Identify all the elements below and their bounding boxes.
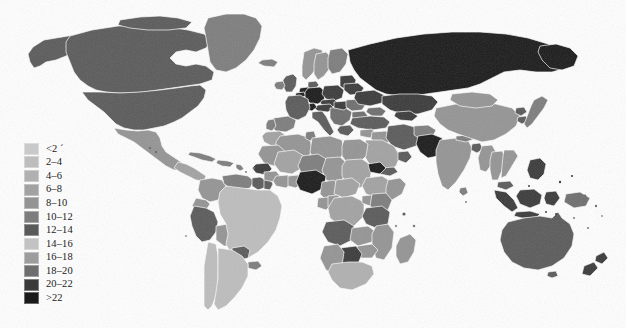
legend-swatch-6-8 bbox=[24, 184, 39, 196]
legend-swatch-8-10 bbox=[24, 197, 39, 209]
legend-item[interactable]: 14–16 bbox=[24, 237, 96, 251]
legend-item[interactable]: 20–22 bbox=[24, 278, 96, 292]
legend-label-8-10: 8–10 bbox=[46, 198, 67, 209]
legend-item[interactable]: 12–14 bbox=[24, 224, 96, 238]
legend-swatch-12-14 bbox=[24, 224, 39, 236]
legend-swatch-2-4 bbox=[24, 156, 39, 168]
legend-swatch-14-16 bbox=[24, 238, 39, 250]
legend-swatch-gt22 bbox=[24, 292, 39, 304]
legend-item[interactable]: 16–18 bbox=[24, 251, 96, 265]
legend-swatch-20-22 bbox=[24, 279, 39, 291]
legend-label-18-20: 18–20 bbox=[46, 266, 73, 277]
legend-item[interactable]: <2 ˊ bbox=[24, 142, 96, 156]
legend-swatch-18-20 bbox=[24, 265, 39, 277]
legend-swatch-4-6 bbox=[24, 170, 39, 182]
legend-item[interactable]: 10–12 bbox=[24, 210, 96, 224]
legend-swatch-16-18 bbox=[24, 252, 39, 264]
legend-label-lt2: <2 ˊ bbox=[46, 144, 64, 155]
legend-label-10-12: 10–12 bbox=[46, 212, 73, 223]
legend-item[interactable]: 6–8 bbox=[24, 183, 96, 197]
legend-label-20-22: 20–22 bbox=[46, 279, 73, 290]
legend-swatch-lt2 bbox=[24, 143, 39, 155]
legend-label-14-16: 14–16 bbox=[46, 239, 73, 250]
legend-item[interactable]: >22 bbox=[24, 292, 96, 306]
world-choropleth-figure: <2 ˊ 2–4 4–6 6–8 8–10 10–12 12–14 14–16 bbox=[0, 0, 626, 328]
legend-label-16-18: 16–18 bbox=[46, 252, 73, 263]
legend-label-12-14: 12–14 bbox=[46, 225, 73, 236]
legend-item[interactable]: 2–4 bbox=[24, 156, 96, 170]
legend-label-gt22: >22 bbox=[46, 293, 63, 304]
legend-label-4-6: 4–6 bbox=[46, 171, 62, 182]
legend-item[interactable]: 18–20 bbox=[24, 264, 96, 278]
legend-label-6-8: 6–8 bbox=[46, 184, 62, 195]
legend-swatch-10-12 bbox=[24, 211, 39, 223]
legend-item[interactable]: 8–10 bbox=[24, 196, 96, 210]
map-legend: <2 ˊ 2–4 4–6 6–8 8–10 10–12 12–14 14–16 bbox=[24, 142, 96, 305]
legend-item[interactable]: 4–6 bbox=[24, 169, 96, 183]
legend-label-2-4: 2–4 bbox=[46, 157, 62, 168]
